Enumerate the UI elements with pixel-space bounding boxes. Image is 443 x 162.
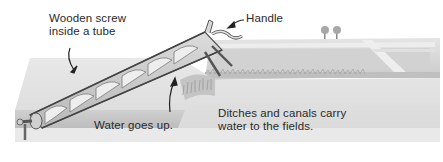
label-ditches-canals: Ditches and canals carry water to the fi… bbox=[218, 107, 346, 133]
label-handle: Handle bbox=[246, 12, 283, 25]
label-line: water to the fields. bbox=[218, 120, 346, 133]
upper-fields bbox=[205, 38, 440, 80]
archimedes-screw-diagram: Wooden screw inside a tube Handle Water … bbox=[0, 0, 443, 162]
label-line: Wooden screw bbox=[49, 12, 126, 25]
label-line: Ditches and canals carry bbox=[218, 107, 346, 120]
trees bbox=[321, 26, 341, 39]
label-line: inside a tube bbox=[49, 25, 126, 38]
label-water-goes-up: Water goes up. bbox=[94, 119, 173, 132]
label-wooden-screw: Wooden screw inside a tube bbox=[49, 12, 126, 38]
